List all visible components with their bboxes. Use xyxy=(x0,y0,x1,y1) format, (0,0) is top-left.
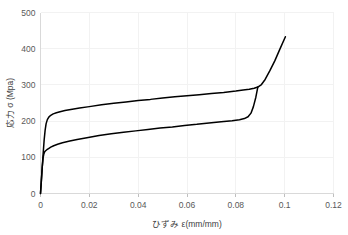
x-tick-label: 0.08 xyxy=(228,200,245,210)
x-tick-label: 0 xyxy=(38,200,43,210)
y-tick-label: 0 xyxy=(31,189,36,199)
x-axis-title: ひずみ ε(mm/mm) xyxy=(152,219,222,229)
stress-strain-chart: 0100200300400500 00.020.040.060.080.10.1… xyxy=(0,0,348,235)
y-axis-title: 応力 σ (Mpa) xyxy=(5,78,15,128)
y-tick-label: 400 xyxy=(21,44,35,54)
y-tick-label: 200 xyxy=(21,116,35,126)
x-tick-label: 0.02 xyxy=(81,200,98,210)
chart-canvas: 0100200300400500 00.020.040.060.080.10.1… xyxy=(0,0,348,235)
x-tick-label: 0.12 xyxy=(325,200,342,210)
x-tick-label: 0.1 xyxy=(279,200,291,210)
x-axis-tick-labels: 00.020.040.060.080.10.12 xyxy=(38,200,342,210)
y-tick-label: 100 xyxy=(21,152,35,162)
x-tick-label: 0.06 xyxy=(179,200,196,210)
y-tick-label: 300 xyxy=(21,80,35,90)
y-tick-label: 500 xyxy=(21,8,35,18)
x-tick-label: 0.04 xyxy=(130,200,147,210)
gridlines-group xyxy=(41,13,334,194)
data-series-group xyxy=(41,37,286,194)
tickmarks-group xyxy=(41,194,334,198)
series-line-lower-branch xyxy=(41,87,258,193)
y-axis-tick-labels: 0100200300400500 xyxy=(21,8,35,199)
